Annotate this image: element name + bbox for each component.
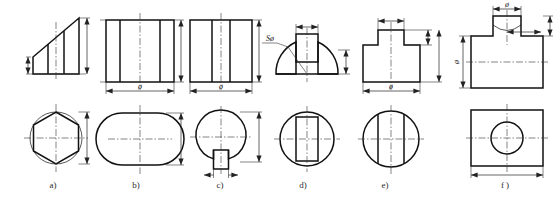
figure-b: ø b) xyxy=(96,13,184,190)
figure-c-dim-diameter: ø xyxy=(190,82,252,91)
figure-b-dim-diameter-label: ø xyxy=(137,82,143,91)
figure-f: ø ø f ) xyxy=(452,0,553,190)
figure-d-front-view xyxy=(262,24,350,82)
figure-e-top-view xyxy=(358,105,424,174)
figure-f-front-view xyxy=(459,6,553,88)
figure-a-front-view xyxy=(26,18,90,80)
figure-e-dim-diameter-label: ø xyxy=(388,82,394,91)
figure-a-top-view xyxy=(24,104,90,172)
figure-f-dim-block-height-label: ø xyxy=(452,59,461,65)
figure-e: ø e) xyxy=(358,18,442,190)
figure-e-caption: e) xyxy=(382,180,389,190)
drawing-canvas: a) ø xyxy=(0,0,559,204)
figure-a: a) xyxy=(24,18,90,190)
figure-c-top-view xyxy=(190,106,262,178)
figure-b-top-view xyxy=(96,105,184,174)
figure-c: ø c) xyxy=(190,13,262,190)
figure-b-front-view xyxy=(100,13,184,94)
figure-c-front-view xyxy=(190,13,262,94)
figure-e-dim-diameter: ø xyxy=(363,82,420,91)
figure-e-front-view xyxy=(363,18,442,94)
figure-f-dim-boss-diameter-label: ø xyxy=(504,0,510,9)
figure-c-caption: c) xyxy=(217,180,224,190)
figure-f-caption: f ) xyxy=(501,180,509,190)
figure-d-caption: d) xyxy=(299,180,307,190)
figure-a-caption: a) xyxy=(50,180,57,190)
figure-f-dim-boss-diameter: ø xyxy=(493,0,521,9)
figure-b-dim-diameter: ø xyxy=(106,82,174,91)
figure-f-dim-block-height: ø xyxy=(452,36,463,88)
figure-d: Sø d) xyxy=(262,24,350,190)
figure-c-dim-diameter-label: ø xyxy=(218,82,224,91)
drawing-sheet: a) ø xyxy=(0,0,559,204)
figure-f-top-view xyxy=(466,104,549,178)
figure-d-top-view xyxy=(274,106,340,172)
figure-d-spherical-diameter-label: Sø xyxy=(266,34,275,43)
figure-b-caption: b) xyxy=(132,180,140,190)
